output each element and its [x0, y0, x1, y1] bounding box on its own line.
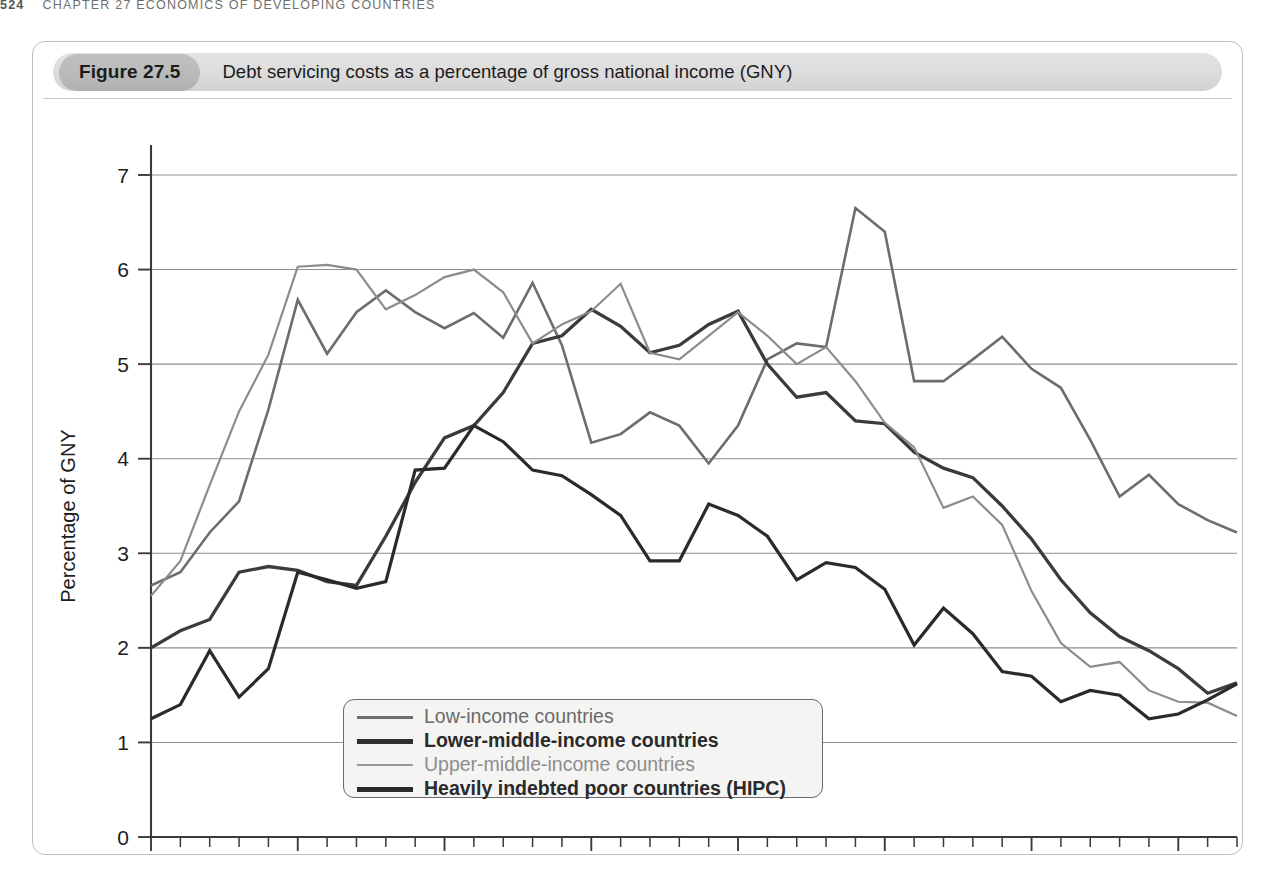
svg-text:1: 1	[117, 731, 129, 754]
page-folio: 524	[0, 0, 24, 12]
page-running-head: 524CHAPTER 27 ECONOMICS OF DEVELOPING CO…	[0, 0, 700, 14]
legend-swatch-hipc	[357, 787, 413, 792]
legend-item-hipc: Heavily indebted poor countries (HIPC)	[344, 777, 822, 801]
figure-caption-text: Debt servicing costs as a percentage of …	[222, 61, 792, 83]
legend-swatch-low-income	[357, 716, 413, 719]
svg-text:3: 3	[117, 542, 129, 565]
legend-label-hipc: Heavily indebted poor countries (HIPC)	[424, 779, 786, 799]
chapter-title: CHAPTER 27 ECONOMICS OF DEVELOPING COUNT…	[42, 0, 435, 12]
legend-label-upper-middle-income: Upper-middle-income countries	[424, 755, 695, 775]
legend-swatch-upper-middle-income	[357, 764, 413, 766]
legend-item-lower-middle-income: Lower-middle-income countries	[344, 729, 822, 753]
svg-text:Percentage of GNY: Percentage of GNY	[57, 429, 79, 602]
figure-container: Figure 27.5 Debt servicing costs as a pe…	[32, 41, 1243, 855]
legend-swatch-lower-middle-income	[357, 739, 413, 744]
svg-text:4: 4	[117, 447, 129, 470]
figure-caption-banner: Figure 27.5 Debt servicing costs as a pe…	[53, 53, 1222, 91]
legend-label-low-income: Low-income countries	[424, 707, 614, 727]
svg-text:7: 7	[117, 164, 129, 187]
legend-label-lower-middle-income: Lower-middle-income countries	[424, 731, 719, 751]
legend-item-upper-middle-income: Upper-middle-income countries	[344, 753, 822, 777]
figure-number-badge: Figure 27.5	[59, 54, 200, 91]
svg-text:2: 2	[117, 636, 129, 659]
chart-legend: Low-income countries Lower-middle-income…	[343, 699, 823, 798]
svg-text:5: 5	[117, 353, 129, 376]
legend-item-low-income: Low-income countries	[344, 705, 822, 729]
svg-text:6: 6	[117, 258, 129, 281]
svg-text:0: 0	[117, 826, 129, 849]
